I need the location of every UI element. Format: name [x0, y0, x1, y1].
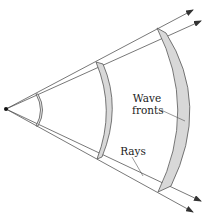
wave-fronts-label-line1: Wave — [132, 92, 162, 104]
middle-front — [96, 62, 112, 159]
small-front — [36, 94, 43, 126]
diagram-canvas — [0, 0, 207, 216]
wave-fronts-label: Wave fronts — [132, 92, 162, 116]
lower-ray-outer — [6, 109, 193, 212]
wave-fronts-label-line2: fronts — [132, 104, 162, 116]
point-source — [4, 107, 8, 111]
rays-label: Rays — [118, 145, 148, 157]
rays-leader — [132, 157, 143, 176]
upper-ray-outer — [6, 10, 193, 109]
wave-front-diagram: Wave fronts Rays — [0, 0, 207, 216]
